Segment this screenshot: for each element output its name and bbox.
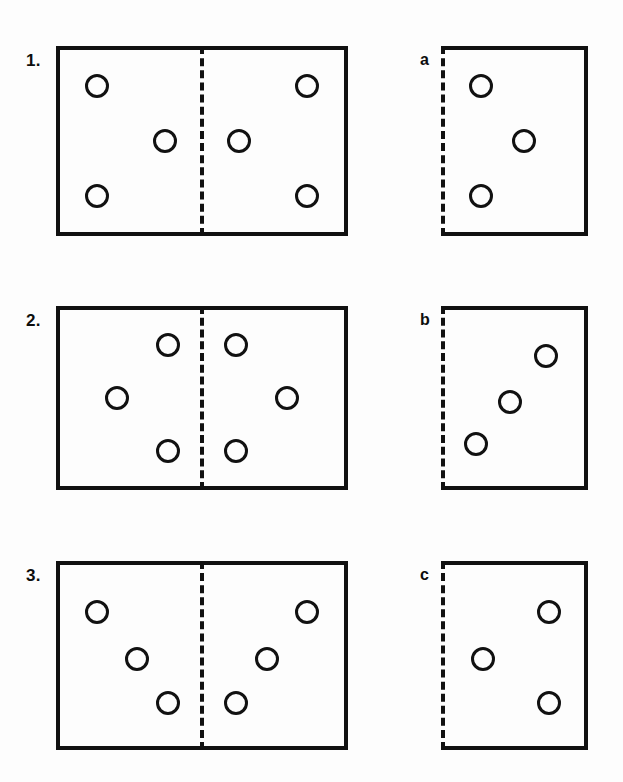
dot-1-right-bottom xyxy=(295,184,319,208)
dot-3-left-bottom xyxy=(156,691,180,715)
answer-panel-b[interactable] xyxy=(445,306,588,490)
dot-2-right-top xyxy=(224,333,248,357)
dot-3-right-bottom xyxy=(224,691,248,715)
dot-3-right-middle xyxy=(255,647,279,671)
dot-2-right-bottom xyxy=(224,439,248,463)
row-1: 1.a xyxy=(0,46,623,236)
row-2: 2.b xyxy=(0,306,623,490)
dot-c-middle xyxy=(471,647,495,671)
question-panel-1[interactable] xyxy=(56,46,348,236)
answer-label-a: a xyxy=(420,52,429,68)
dot-3-right-top xyxy=(295,600,319,624)
row-3: 3.c xyxy=(0,561,623,750)
dot-1-left-middle xyxy=(153,129,177,153)
dot-a-middle xyxy=(512,129,536,153)
mirror-line-dashed xyxy=(441,561,445,750)
dot-2-left-top xyxy=(156,333,180,357)
dot-b-middle xyxy=(498,390,522,414)
question-label-2: 2. xyxy=(26,312,41,329)
dot-1-left-top xyxy=(85,74,109,98)
answer-panel-a[interactable] xyxy=(445,46,588,236)
question-panel-2[interactable] xyxy=(56,306,348,490)
dot-2-left-bottom xyxy=(156,439,180,463)
worksheet-canvas: 1.a2.b3.c xyxy=(0,0,623,782)
mirror-line-dashed xyxy=(441,306,445,490)
dot-2-left-middle xyxy=(105,386,129,410)
dot-2-right-middle xyxy=(275,386,299,410)
dot-b-bottom xyxy=(464,432,488,456)
answer-panel-c[interactable] xyxy=(445,561,588,750)
question-label-1: 1. xyxy=(26,52,41,69)
dot-c-bottom xyxy=(537,691,561,715)
mirror-line-dashed xyxy=(441,46,445,236)
mirror-line-dashed xyxy=(200,561,204,750)
answer-label-b: b xyxy=(420,312,430,328)
answer-label-c: c xyxy=(420,567,429,583)
mirror-line-dashed xyxy=(200,306,204,490)
dot-1-right-middle xyxy=(227,129,251,153)
question-panel-3[interactable] xyxy=(56,561,348,750)
dot-b-top xyxy=(534,344,558,368)
dot-1-left-bottom xyxy=(85,184,109,208)
dot-a-top xyxy=(469,74,493,98)
dot-1-right-top xyxy=(295,74,319,98)
dot-c-top xyxy=(537,600,561,624)
question-label-3: 3. xyxy=(26,567,41,584)
mirror-line-dashed xyxy=(200,46,204,236)
dot-a-bottom xyxy=(469,184,493,208)
dot-3-left-top xyxy=(85,600,109,624)
dot-3-left-middle xyxy=(125,647,149,671)
